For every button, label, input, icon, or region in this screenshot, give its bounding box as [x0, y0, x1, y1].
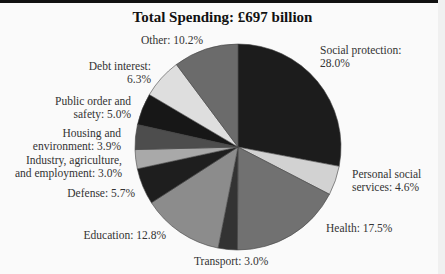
label-defense: Defense: 5.7% [40, 187, 135, 200]
label-debt-interest: Debt interest: 6.3% [40, 60, 151, 86]
label-transport: Transport: 3.0% [194, 255, 268, 268]
label-other: Other: 10.2% [141, 34, 203, 47]
label-industry-agriculture-employment: Industry, agriculture, and employment: 3… [0, 154, 122, 180]
label-education: Education: 12.8% [50, 229, 166, 242]
label-personal-social-services: Personal social services: 4.6% [352, 168, 421, 194]
label-social-protection: Social protection: 28.0% [320, 44, 401, 70]
label-housing-environment: Housing and environment: 3.9% [0, 127, 121, 153]
label-public-order-safety: Public order and safety: 5.0% [0, 95, 131, 121]
label-health: Health: 17.5% [326, 222, 392, 235]
